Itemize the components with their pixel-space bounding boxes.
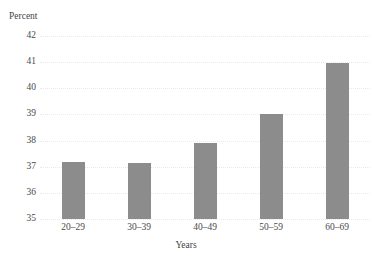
y-axis-tick-label: 41 bbox=[10, 56, 36, 66]
y-axis-tick-label: 40 bbox=[10, 82, 36, 92]
x-axis-tick-label: 50–59 bbox=[235, 222, 307, 232]
bar bbox=[128, 163, 151, 219]
bar bbox=[260, 114, 283, 219]
y-axis-tick-label: 38 bbox=[10, 135, 36, 145]
y-axis-tick-label: 36 bbox=[10, 187, 36, 197]
x-axis-tick-label: 60–69 bbox=[301, 222, 372, 232]
x-axis-label: Years bbox=[0, 240, 372, 250]
bar bbox=[326, 63, 349, 219]
gridline bbox=[40, 62, 370, 64]
bar bbox=[194, 143, 217, 219]
y-axis-tick-label: 35 bbox=[10, 213, 36, 223]
chart-title bbox=[0, 0, 372, 1]
x-axis-tick-label: 30–39 bbox=[103, 222, 175, 232]
gridline bbox=[40, 36, 370, 38]
y-axis-tick-label: 39 bbox=[10, 108, 36, 118]
y-axis-tick-label: 42 bbox=[10, 30, 36, 40]
x-axis-tick-label: 40–49 bbox=[169, 222, 241, 232]
gridline bbox=[40, 219, 370, 221]
gridline bbox=[40, 88, 370, 90]
bar-chart: Percent 424140393837363520–2930–3940–495… bbox=[0, 0, 372, 265]
y-axis-tick-label: 37 bbox=[10, 161, 36, 171]
plot-area: 424140393837363520–2930–3940–4950–5960–6… bbox=[40, 36, 370, 219]
bar bbox=[62, 162, 85, 220]
x-axis-tick-label: 20–29 bbox=[37, 222, 109, 232]
y-axis-label: Percent bbox=[9, 11, 38, 21]
gridline bbox=[40, 114, 370, 116]
